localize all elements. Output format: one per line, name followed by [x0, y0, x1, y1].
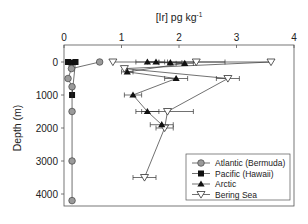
y-axis-title: Depth (m)	[11, 105, 23, 152]
x-tick-label: 0	[61, 32, 67, 43]
legend-label: Pacific (Hawaii)	[215, 169, 274, 179]
depth-profile-chart: [Ir] pg kg-1 Depth (m) 01234 01000200030…	[0, 0, 308, 224]
y-tick-label: 2000	[36, 123, 59, 134]
legend: Atlantic (Bermuda)Pacific (Hawaii)Arctic…	[186, 154, 290, 200]
y-tick-label: 1000	[36, 90, 59, 101]
y-axis-ticks: 01000200030004000	[36, 57, 64, 200]
y-tick-label: 0	[52, 57, 58, 68]
series-atlantic-bermuda	[65, 59, 103, 204]
series-arctic	[122, 58, 194, 127]
y-tick-label: 3000	[36, 156, 59, 167]
x-tick-label: 4	[291, 32, 297, 43]
legend-label: Atlantic (Bermuda)	[215, 158, 286, 168]
x-axis-title: [Ir] pg kg-1	[156, 11, 203, 23]
legend-label: Arctic	[215, 179, 237, 189]
x-tick-label: 2	[176, 32, 182, 43]
x-tick-label: 3	[234, 32, 240, 43]
legend-label: Bering Sea	[215, 190, 257, 200]
x-axis-ticks: 01234	[61, 32, 297, 48]
x-tick-label: 1	[119, 32, 125, 43]
y-tick-label: 4000	[36, 189, 59, 200]
